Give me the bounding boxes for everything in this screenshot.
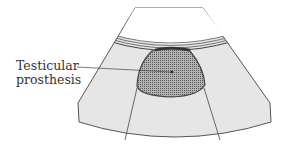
label-pointer-dot bbox=[171, 71, 174, 74]
label-line-1: Testicular bbox=[16, 59, 81, 73]
testicular-prosthesis-label: Testicular prosthesis bbox=[16, 59, 81, 87]
label-line-2: prosthesis bbox=[16, 73, 81, 87]
near-field bbox=[119, 8, 224, 44]
